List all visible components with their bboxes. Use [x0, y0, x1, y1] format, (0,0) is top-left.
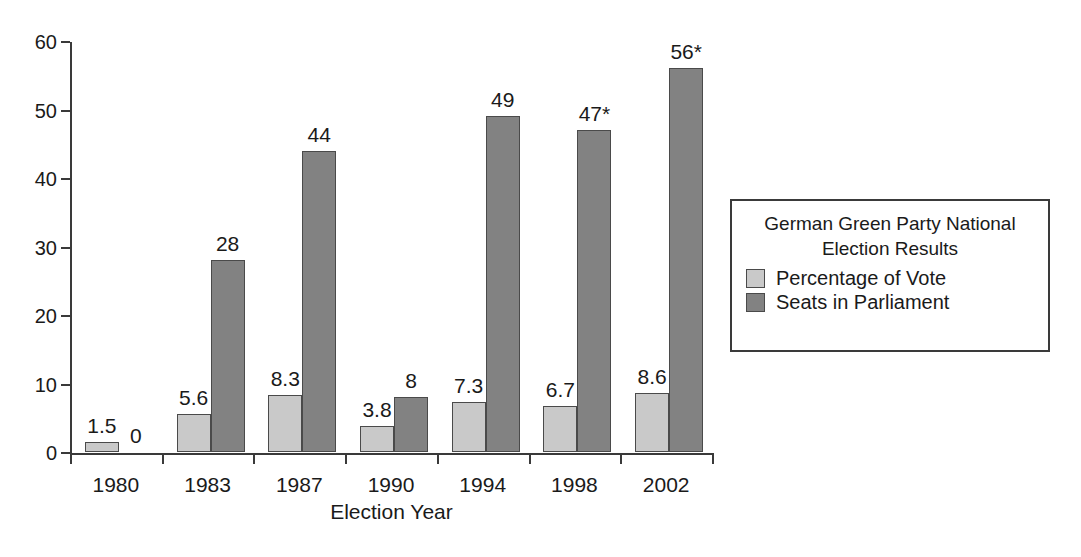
- bar-value-label: 7.3: [454, 375, 483, 396]
- x-axis-tick: [345, 453, 347, 464]
- x-axis-tick: [70, 453, 72, 464]
- y-axis-tick: [61, 41, 70, 43]
- bar-value-label: 6.7: [546, 379, 575, 400]
- legend-swatch-vote: [746, 269, 765, 288]
- x-axis-tick: [253, 453, 255, 464]
- legend-entry-1: Percentage of Vote: [746, 268, 1040, 288]
- bar-value-label: 44: [308, 124, 331, 145]
- x-axis-tick-label: 1998: [551, 474, 598, 495]
- x-axis-tick: [437, 453, 439, 464]
- x-axis-tick: [529, 453, 531, 464]
- bar-2002-vote: [635, 393, 669, 452]
- bar-1980-vote: [85, 442, 119, 452]
- legend-title-line-2: Election Results: [822, 238, 958, 259]
- y-axis-tick: [61, 384, 70, 386]
- bar-1994-vote: [452, 402, 486, 452]
- bar-value-label: 8: [405, 370, 417, 391]
- legend-entries: Percentage of VoteSeats in Parliament: [740, 268, 1040, 312]
- bar-value-label: 1.5: [87, 415, 116, 436]
- y-axis-tick-label: 40: [35, 169, 57, 189]
- bar-1983-vote: [177, 414, 211, 452]
- bar-1994-seats: [486, 116, 520, 452]
- x-axis-line: [70, 453, 713, 455]
- y-axis-tick-label: 0: [46, 443, 57, 463]
- bar-value-label: 47*: [579, 103, 611, 124]
- legend-label: Percentage of Vote: [776, 268, 946, 288]
- chart-screenshot: 0102030405060 19801983198719901994199820…: [0, 0, 1081, 557]
- bar-2002-seats: [669, 68, 703, 452]
- legend-swatch-seats: [746, 293, 765, 312]
- x-axis-tick-label: 1983: [184, 474, 231, 495]
- bar-1987-seats: [302, 151, 336, 452]
- bar-value-label: 8.3: [271, 368, 300, 389]
- x-axis-tick-label: 1990: [368, 474, 415, 495]
- legend-title: German Green Party National Election Res…: [740, 211, 1040, 261]
- x-axis-tick-label: 1987: [276, 474, 323, 495]
- y-axis-tick: [61, 178, 70, 180]
- legend-title-line-1: German Green Party National: [764, 213, 1015, 234]
- x-axis-tick: [162, 453, 164, 464]
- x-axis-tick: [712, 453, 714, 464]
- y-axis-tick: [61, 247, 70, 249]
- y-axis-tick: [61, 110, 70, 112]
- x-axis-tick-label: 2002: [643, 474, 690, 495]
- plot-area: 0102030405060 19801983198719901994199820…: [70, 42, 712, 454]
- bar-1983-seats: [211, 260, 245, 452]
- bar-1998-vote: [543, 406, 577, 452]
- y-axis-tick-label: 10: [35, 375, 57, 395]
- y-axis-tick: [61, 452, 70, 454]
- bar-value-label: 49: [491, 89, 514, 110]
- bar-value-label: 5.6: [179, 387, 208, 408]
- x-axis-title: Election Year: [70, 500, 713, 524]
- bar-1990-vote: [360, 426, 394, 452]
- bar-value-label: 8.6: [638, 366, 667, 387]
- y-axis-line: [70, 42, 72, 455]
- y-axis-tick-label: 50: [35, 101, 57, 121]
- x-axis-tick-label: 1980: [92, 474, 139, 495]
- y-axis-tick: [61, 315, 70, 317]
- y-axis-tick-label: 30: [35, 238, 57, 258]
- legend: German Green Party National Election Res…: [730, 199, 1050, 352]
- legend-label: Seats in Parliament: [776, 292, 949, 312]
- y-axis-tick-label: 20: [35, 306, 57, 326]
- y-axis-tick-label: 60: [35, 32, 57, 52]
- bar-value-label: 28: [216, 233, 239, 254]
- x-axis-tick-label: 1994: [459, 474, 506, 495]
- legend-entry-2: Seats in Parliament: [746, 292, 1040, 312]
- x-axis-tick: [620, 453, 622, 464]
- bar-value-label: 56*: [670, 41, 702, 62]
- bar-1990-seats: [394, 397, 428, 452]
- bar-value-label: 0: [130, 425, 142, 446]
- bar-1998-seats: [577, 130, 611, 452]
- bar-1987-vote: [268, 395, 302, 452]
- bar-value-label: 3.8: [362, 399, 391, 420]
